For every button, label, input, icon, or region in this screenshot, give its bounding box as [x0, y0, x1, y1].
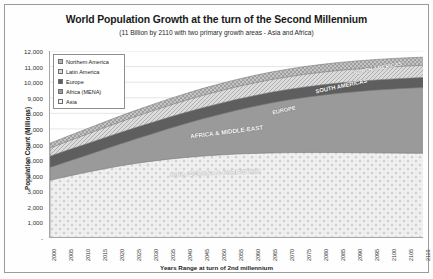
x-axis-tick-labels: 2000200520102015202020252030203520402045…: [49, 239, 423, 265]
chart-title: World Population Growth at the turn of t…: [5, 14, 428, 25]
y-axis-tick-label: 10,000: [24, 79, 43, 86]
y-axis-tick-label: 8,000: [28, 110, 43, 117]
x-axis-tick-label: 2045: [204, 249, 210, 261]
x-axis-tick-label: 2100: [391, 249, 397, 261]
x-axis-tick-label: 2040: [187, 249, 193, 261]
x-axis-tick-label: 2085: [340, 249, 346, 261]
x-axis-tick-label: 2025: [136, 249, 142, 261]
x-axis-title: Years Range at turn of 2nd millennium: [5, 264, 428, 271]
x-axis-tick-label: 2065: [272, 249, 278, 261]
x-axis-tick-label: 2070: [289, 249, 295, 261]
x-axis-tick-label: 2030: [153, 249, 159, 261]
y-axis-tick-labels: -1,0002,0003,0004,0005,0006,0007,0008,00…: [5, 51, 47, 238]
x-axis-tick-label: 2075: [306, 249, 312, 261]
x-axis-tick-label: 2095: [374, 249, 380, 261]
legend-item-label: Asia: [66, 99, 77, 105]
legend-item-asia[interactable]: Asia: [58, 98, 121, 105]
y-axis-tick-label: 12,000: [24, 48, 43, 55]
x-axis-tick-label: 2080: [323, 249, 329, 261]
y-axis-tick-label: 1,000: [28, 219, 43, 226]
y-axis-tick-label: 4,000: [28, 172, 43, 179]
x-axis-tick-label: 2050: [221, 249, 227, 261]
screenshot-root: World Population Growth at the turn of t…: [0, 0, 433, 279]
x-axis-tick-label: 2060: [255, 249, 261, 261]
legend-item-europe[interactable]: Europe: [58, 78, 121, 85]
x-axis-tick-label: 2000: [51, 249, 57, 261]
legend-swatch-icon: [58, 59, 63, 64]
legend-item-northern-america[interactable]: Northern America: [58, 58, 121, 65]
legend-swatch-icon: [58, 69, 63, 74]
chart-frame: World Population Growth at the turn of t…: [4, 4, 429, 273]
legend-item-label: Northern America: [66, 59, 109, 65]
legend-swatch-icon: [58, 99, 63, 104]
y-axis-tick-label: 5,000: [28, 157, 43, 164]
x-axis-tick-label: 2105: [408, 249, 414, 261]
x-axis-tick-label: 2055: [238, 249, 244, 261]
y-axis-tick-label: 11,000: [25, 63, 43, 70]
y-axis-tick-label: 9,000: [28, 94, 43, 101]
y-axis-tick-label: 7,000: [28, 125, 43, 132]
x-axis-tick-label: 2015: [102, 249, 108, 261]
y-axis-tick-label: -: [41, 235, 43, 242]
legend-item-label: Latin America: [66, 69, 99, 75]
legend-swatch-icon: [58, 89, 63, 94]
x-axis-tick-label: 2110: [425, 249, 431, 261]
y-axis-tick-label: 2,000: [28, 203, 43, 210]
legend-item-latin-america[interactable]: Latin America: [58, 68, 121, 75]
x-axis-tick-label: 2035: [170, 249, 176, 261]
legend-item-label: Africa (MENA): [66, 89, 101, 95]
x-axis-tick-label: 2010: [85, 249, 91, 261]
legend-swatch-icon: [58, 79, 63, 84]
legend-item-africa-mena[interactable]: Africa (MENA): [58, 88, 121, 95]
chart-subtitle: (11 Billion by 2110 with two primary gro…: [5, 29, 428, 36]
y-axis-tick-label: 3,000: [28, 188, 43, 195]
legend[interactable]: Northern America Latin America Europe Af…: [53, 54, 125, 109]
legend-item-label: Europe: [66, 79, 84, 85]
x-axis-tick-label: 2090: [357, 249, 363, 261]
x-axis-tick-label: 2020: [119, 249, 125, 261]
y-axis-tick-label: 6,000: [28, 141, 43, 148]
x-axis-tick-label: 2005: [68, 249, 74, 261]
